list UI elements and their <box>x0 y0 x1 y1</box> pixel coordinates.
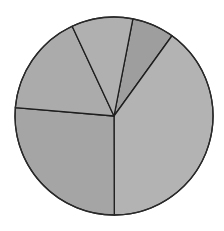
pie-chart-svg <box>0 0 224 231</box>
pie-chart <box>0 0 224 231</box>
pie-slice-3 <box>15 108 114 215</box>
